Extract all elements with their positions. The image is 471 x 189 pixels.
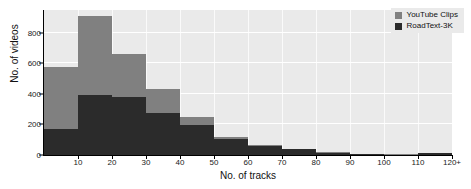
legend-swatch-icon xyxy=(395,23,402,30)
legend-item[interactable]: YouTube Clips xyxy=(395,11,458,19)
bar-group xyxy=(78,10,112,155)
bar-roadtext-3k xyxy=(180,125,214,155)
legend-item[interactable]: RoadText-3K xyxy=(395,22,458,30)
x-tick-mark-10 xyxy=(78,155,79,159)
bar-roadtext-3k xyxy=(78,95,112,155)
x-tick-mark-70 xyxy=(282,155,283,159)
x-tick-mark-40 xyxy=(180,155,181,159)
y-tick-label-0: 0 xyxy=(0,151,41,160)
x-axis-title: No. of tracks xyxy=(44,170,452,181)
y-axis-line xyxy=(43,10,44,156)
legend-swatch-icon xyxy=(395,12,402,19)
x-tick-label-10: 10 xyxy=(74,158,83,167)
x-tick-label-60: 60 xyxy=(244,158,253,167)
y-tick-label-600: 600 xyxy=(0,59,41,68)
bar-roadtext-3k xyxy=(44,129,78,155)
x-tick-mark-20 xyxy=(112,155,113,159)
x-tick-label-20: 20 xyxy=(108,158,117,167)
x-tick-mark-90 xyxy=(350,155,351,159)
legend-label: RoadText-3K xyxy=(407,22,453,30)
x-tick-mark-100 xyxy=(384,155,385,159)
x-tick-label-120+: 120+ xyxy=(443,158,461,167)
bar-group xyxy=(248,10,282,155)
bar-group xyxy=(44,10,78,155)
legend-label: YouTube Clips xyxy=(407,11,458,19)
x-tick-mark-60 xyxy=(248,155,249,159)
x-tick-mark-110 xyxy=(418,155,419,159)
chart-figure: No. of videos 0200400600800 102030405060… xyxy=(0,0,471,189)
bar-group xyxy=(112,10,146,155)
y-tick-label-200: 200 xyxy=(0,120,41,129)
bar-group xyxy=(316,10,350,155)
bar-roadtext-3k xyxy=(248,146,282,155)
bar-group xyxy=(282,10,316,155)
x-tick-mark-30 xyxy=(146,155,147,159)
x-tick-label-70: 70 xyxy=(278,158,287,167)
x-tick-mark-50 xyxy=(214,155,215,159)
x-tick-label-100: 100 xyxy=(377,158,390,167)
bar-roadtext-3k xyxy=(112,97,146,155)
x-tick-label-110: 110 xyxy=(412,158,425,167)
bar-group xyxy=(214,10,248,155)
bar-roadtext-3k xyxy=(146,113,180,155)
bar-group xyxy=(146,10,180,155)
x-tick-label-80: 80 xyxy=(312,158,321,167)
x-tick-label-90: 90 xyxy=(346,158,355,167)
y-tick-label-800: 800 xyxy=(0,28,41,37)
x-tick-label-50: 50 xyxy=(210,158,219,167)
x-tick-label-30: 30 xyxy=(142,158,151,167)
bar-roadtext-3k xyxy=(214,139,248,155)
legend: YouTube ClipsRoadText-3K xyxy=(391,8,464,33)
x-tick-label-40: 40 xyxy=(176,158,185,167)
bar-group xyxy=(180,10,214,155)
y-tick-label-400: 400 xyxy=(0,89,41,98)
x-tick-mark-120+ xyxy=(452,155,453,159)
x-tick-mark-80 xyxy=(316,155,317,159)
bar-group xyxy=(350,10,384,155)
